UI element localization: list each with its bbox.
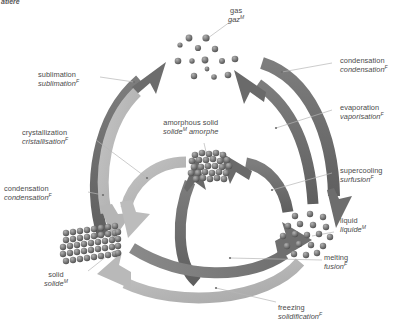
state-label-amorphous-solid: amorphous solid solideM amorphe xyxy=(163,118,218,137)
transition-label-condensation-liquefaction: condensation condensationF xyxy=(340,56,388,75)
transition-label-evaporation: evaporation vaporisationF xyxy=(340,103,384,122)
state-label-gas: gas gazM xyxy=(228,6,244,25)
transition-label-sublimation: sublimation sublimationF xyxy=(38,70,79,89)
transition-label-condensation-deposition: condensation condensationF xyxy=(4,184,52,203)
transition-label-crystallization: crystallization cristallisationF xyxy=(22,128,68,147)
arrow-supercooling xyxy=(220,152,288,212)
corner-caption: atière xyxy=(1,0,20,5)
transition-label-supercooling: supercooling surfusionF xyxy=(340,166,383,185)
state-label-solid: solid solideM xyxy=(44,270,68,289)
phase-transition-diagram: atière gas gazM amorphous solid solideM … xyxy=(0,0,395,328)
transition-label-melting: melting fusionF xyxy=(324,253,348,272)
transition-label-freezing: freezing solidificationF xyxy=(278,303,322,322)
state-label-liquid: liquid liquideM xyxy=(340,216,366,235)
gas-particles xyxy=(175,34,239,79)
